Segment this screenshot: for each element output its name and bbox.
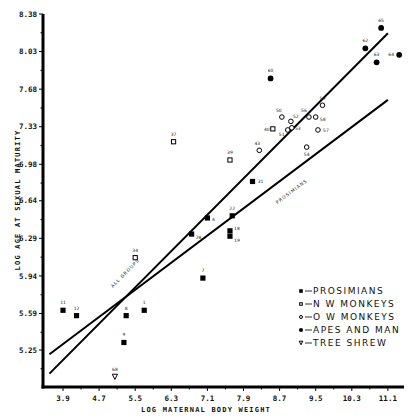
point-label: 60 [268, 68, 274, 73]
point-label: 64 [388, 52, 394, 57]
filled-square-marker [227, 228, 232, 233]
x-axis-title: LOG MATERNAL BODY WEIGHT [141, 406, 271, 414]
point-label: 53 [295, 126, 301, 131]
x-tick-label: 7.9 [237, 394, 251, 403]
x-tick-label: 9.5 [309, 394, 323, 403]
y-axis-title: LOG AGE AT SEXUAL MATURITY [14, 130, 22, 271]
x-tick-label: 8.7 [273, 394, 287, 403]
point-label: 56 [301, 108, 307, 113]
point-label: 12 [74, 306, 80, 311]
open-square-marker [228, 158, 232, 162]
filled-square-marker [60, 308, 65, 313]
series-apes-and-man: 6062636465 [268, 18, 402, 81]
filled-square-marker [250, 179, 255, 184]
x-tick-label: 3.9 [56, 394, 70, 403]
point-label: 68 [112, 367, 118, 372]
legend-label: TREE SHREW [312, 338, 387, 348]
point-label: 63 [374, 52, 380, 57]
open-triangle-down-marker [299, 341, 303, 345]
filled-square-marker [205, 215, 210, 220]
y-tick-label: 5.94 [19, 272, 38, 281]
open-circle-marker [316, 128, 321, 133]
filled-square-marker [189, 231, 194, 236]
point-label: 39 [227, 150, 233, 155]
y-tick-label: 8.03 [19, 47, 38, 56]
point-label: 54 [304, 152, 310, 157]
open-square-marker [300, 303, 303, 306]
legend-item: PROSIMIANS [299, 286, 384, 296]
point-label: 52 [293, 114, 299, 119]
x-tick-label: 4.7 [92, 394, 106, 403]
filled-square-marker [230, 213, 235, 218]
filled-circle-marker [374, 59, 380, 65]
open-circle-marker [289, 119, 294, 124]
point-label: 51 [279, 132, 285, 137]
filled-square-marker [200, 275, 205, 280]
point-label: 37 [171, 132, 177, 137]
point-label: 43 [254, 141, 260, 146]
series-tree-shrew: 68 [112, 367, 118, 380]
point-label: 28 [196, 235, 202, 240]
point-label: 9 [122, 332, 125, 337]
open-circle-marker [313, 115, 318, 120]
point-label: 59 [320, 96, 326, 101]
filled-circle-marker [268, 76, 274, 82]
open-square-marker [171, 140, 175, 144]
point-label: 1 [143, 300, 146, 305]
legend-item: TREE SHREW [299, 338, 387, 348]
legend-label: APES AND MAN [313, 325, 400, 335]
point-label: 40 [264, 127, 270, 132]
point-label: 57 [323, 128, 329, 133]
y-tick-label: 5.59 [19, 309, 38, 318]
regression-lines: ALL GROUPSPROSIMIANS [49, 33, 387, 373]
point-label: 7 [201, 268, 204, 273]
filled-circle-marker [396, 52, 402, 58]
x-tick-label: 11.1 [379, 394, 398, 403]
x-tick-label: 5.5 [128, 394, 142, 403]
legend-label: O W MONKEYS [313, 312, 396, 322]
all-groups-line-label: ALL GROUPS [110, 258, 141, 289]
open-circle-marker [257, 148, 262, 153]
filled-square-marker [227, 234, 232, 239]
point-label: 8 [125, 306, 128, 311]
scatter-chart: 8.388.037.687.336.986.646.295.945.595.25… [0, 0, 411, 419]
legend-label: PROSIMIANS [313, 286, 384, 296]
point-label: 11 [60, 300, 66, 305]
filled-square-marker [121, 340, 126, 345]
legend-item: APES AND MAN [299, 325, 400, 335]
open-circle-marker [320, 103, 325, 108]
series-n-w-monkeys: 34373940 [132, 127, 275, 260]
point-label: 22 [229, 206, 235, 211]
y-tick-label: 5.25 [19, 346, 37, 355]
open-circle-marker [289, 125, 294, 130]
filled-square-marker [74, 313, 79, 318]
x-tick-label: 6.3 [165, 394, 179, 403]
legend-item: N W MONKEYS [300, 299, 396, 309]
point-label: 65 [378, 18, 384, 23]
point-label: 34 [132, 248, 138, 253]
point-label: 31 [258, 179, 264, 184]
filled-square-marker [124, 313, 129, 318]
filled-circle-marker [362, 45, 368, 51]
x-tick-label: 7.1 [201, 394, 215, 403]
open-circle-marker [280, 115, 285, 120]
point-label: 50 [276, 108, 282, 113]
legend-label: N W MONKEYS [313, 299, 395, 309]
open-circle-marker [304, 145, 309, 150]
filled-circle-marker [378, 25, 384, 31]
point-label: 62 [362, 38, 368, 43]
x-tick-label: 10.3 [343, 394, 362, 403]
open-circle-marker [307, 115, 312, 120]
filled-square-marker [299, 289, 303, 293]
open-square-marker [271, 127, 275, 131]
open-triangle-down-marker [112, 374, 117, 379]
point-label: 58 [320, 117, 326, 122]
legend: PROSIMIANSN W MONKEYSO W MONKEYSAPES AND… [299, 286, 400, 348]
filled-circle-marker [299, 328, 303, 332]
filled-square-marker [142, 308, 147, 313]
open-square-marker [133, 256, 137, 260]
point-label: 18 [234, 226, 240, 231]
point-label: 4 [212, 217, 215, 222]
regression-line-all-groups [49, 33, 387, 373]
point-label: 19 [234, 238, 240, 243]
